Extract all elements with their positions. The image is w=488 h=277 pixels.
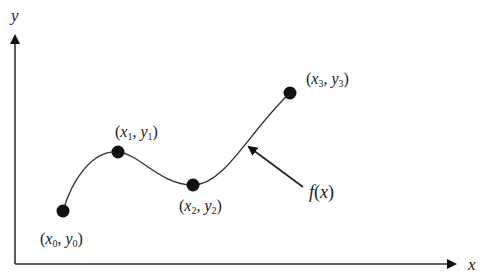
point-p2 xyxy=(187,179,200,192)
label-p2: (x2, y2) xyxy=(179,197,222,216)
y-axis-label: y xyxy=(9,6,19,25)
point-p0 xyxy=(57,205,70,218)
interpolation-diagram: y x (x0, y0) (x1, y1) (x2, y2) (x3, y3) … xyxy=(0,0,488,277)
point-p3 xyxy=(284,87,297,100)
x-axis-label: x xyxy=(467,255,476,274)
label-p0: (x0, y0) xyxy=(40,230,83,249)
point-p1 xyxy=(112,146,125,159)
label-p3: (x3, y3) xyxy=(306,70,349,89)
function-label: f(x) xyxy=(309,182,334,203)
label-p1: (x1, y1) xyxy=(115,123,158,142)
function-pointer-arrow xyxy=(249,147,303,187)
